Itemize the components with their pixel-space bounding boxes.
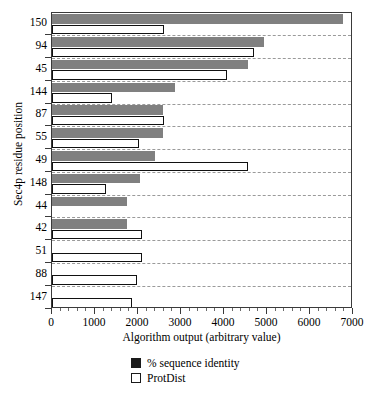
x-tick-minor [214, 308, 215, 311]
x-tick-minor [206, 308, 207, 311]
gridline [52, 35, 351, 36]
y-tick-label-148: 148 [3, 177, 47, 188]
x-tick-label-2000: 2000 [114, 316, 160, 328]
bar-identity-87 [52, 105, 163, 115]
bar-protdist-144 [52, 93, 112, 103]
bar-identity-144 [52, 83, 175, 93]
y-tick-label-55: 55 [3, 131, 47, 142]
x-tick-minor [171, 308, 172, 311]
x-tick-minor [326, 308, 327, 311]
x-tick-minor [232, 308, 233, 311]
bar-chart-figure: Sec4p residue position 15094451448755491… [0, 0, 366, 398]
x-tick-minor [60, 308, 61, 311]
x-tick-label-3000: 3000 [157, 316, 203, 328]
x-tick-minor [240, 308, 241, 311]
x-tick-label-6000: 6000 [286, 316, 332, 328]
x-tick-label-5000: 5000 [243, 316, 289, 328]
gridline [52, 286, 351, 287]
y-tick-label-51: 51 [3, 245, 47, 256]
x-tick-minor [163, 308, 164, 311]
bar-identity-42 [52, 219, 127, 229]
bar-protdist-147 [52, 298, 132, 308]
y-tick-label-44: 44 [3, 200, 47, 211]
x-tick-minor [154, 308, 155, 311]
bar-protdist-49 [52, 162, 248, 172]
x-tick-major [51, 308, 52, 314]
bar-protdist-148 [52, 184, 106, 194]
x-tick-minor [146, 308, 147, 311]
x-tick-minor [249, 308, 250, 311]
x-tick-major [137, 308, 138, 314]
x-tick-minor [120, 308, 121, 311]
gridline [52, 126, 351, 127]
y-tick-label-147: 147 [3, 291, 47, 302]
x-tick-major [352, 308, 353, 314]
x-tick-minor [85, 308, 86, 311]
gridline [52, 149, 351, 150]
y-tick-label-88: 88 [3, 268, 47, 279]
bar-identity-94 [52, 37, 264, 47]
x-tick-major [94, 308, 95, 314]
bar-identity-45 [52, 60, 248, 70]
x-tick-minor [68, 308, 69, 311]
x-tick-major [266, 308, 267, 314]
y-tick-label-45: 45 [3, 63, 47, 74]
gridline [52, 104, 351, 105]
bar-protdist-94 [52, 48, 254, 58]
x-tick-minor [343, 308, 344, 311]
plot-area [51, 12, 352, 308]
legend-item-protdist: ProtDist [131, 370, 240, 385]
y-tick-label-144: 144 [3, 86, 47, 97]
y-tick-label-49: 49 [3, 154, 47, 165]
x-tick-major [180, 308, 181, 314]
x-tick-minor [283, 308, 284, 311]
x-tick-label-1000: 1000 [71, 316, 117, 328]
bar-protdist-55 [52, 139, 139, 149]
x-tick-label-4000: 4000 [200, 316, 246, 328]
legend-item-identity: % sequence identity [131, 355, 240, 370]
bar-protdist-45 [52, 70, 227, 80]
x-tick-label-7000: 7000 [329, 316, 366, 328]
chart-legend: % sequence identity ProtDist [131, 355, 240, 385]
x-tick-minor [103, 308, 104, 311]
y-axis-tick-group: 150944514487554914844425188147 [0, 12, 47, 308]
x-tick-minor [300, 308, 301, 311]
legend-label-identity: % sequence identity [147, 356, 240, 370]
x-tick-minor [275, 308, 276, 311]
gridline [52, 263, 351, 264]
x-tick-minor [111, 308, 112, 311]
bar-identity-49 [52, 151, 155, 161]
x-axis-title: Algorithm output (arbitrary value) [51, 331, 352, 343]
x-tick-minor [257, 308, 258, 311]
gridline [52, 240, 351, 241]
bar-protdist-42 [52, 230, 142, 240]
y-tick-label-42: 42 [3, 222, 47, 233]
gridline [52, 217, 351, 218]
gridline [52, 195, 351, 196]
gridline [52, 81, 351, 82]
x-tick-minor [197, 308, 198, 311]
bar-identity-150 [52, 14, 343, 24]
bar-protdist-51 [52, 253, 142, 263]
bar-identity-55 [52, 128, 163, 138]
x-tick-minor [292, 308, 293, 311]
bar-protdist-87 [52, 116, 164, 126]
gridline [52, 58, 351, 59]
x-axis: 01000200030004000500060007000 [51, 308, 352, 309]
x-tick-minor [189, 308, 190, 311]
x-tick-minor [77, 308, 78, 311]
bar-identity-44 [52, 197, 127, 207]
y-tick-label-94: 94 [3, 40, 47, 51]
x-tick-minor [128, 308, 129, 311]
y-tick-label-150: 150 [3, 17, 47, 28]
y-tick-label-87: 87 [3, 108, 47, 119]
x-tick-minor [318, 308, 319, 311]
bar-identity-148 [52, 174, 140, 184]
filled-square-icon [131, 358, 141, 368]
bar-protdist-88 [52, 275, 137, 285]
open-square-icon [131, 373, 141, 383]
gridline [52, 172, 351, 173]
x-tick-label-0: 0 [28, 316, 74, 328]
x-tick-major [223, 308, 224, 314]
x-tick-major [309, 308, 310, 314]
